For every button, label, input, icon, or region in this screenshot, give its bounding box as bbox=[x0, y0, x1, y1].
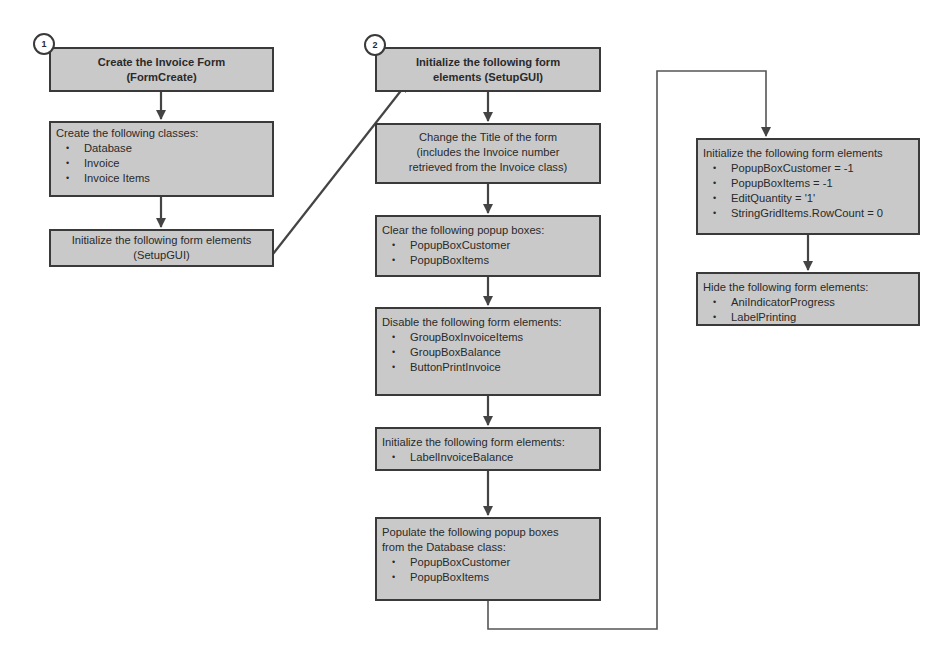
popup-list: PopupBoxCustomer PopupBoxItems bbox=[382, 555, 594, 585]
list-item: Database bbox=[56, 141, 267, 156]
box-line: Change the Title of the form bbox=[382, 130, 594, 145]
element-list: AniIndicatorProgress LabelPrinting bbox=[703, 295, 913, 325]
list-item: Invoice bbox=[56, 156, 267, 171]
box-subtitle: elements (SetupGUI) bbox=[382, 70, 594, 85]
box-subtitle: (SetupGUI) bbox=[56, 248, 267, 263]
box-change-title: Change the Title of the form (includes t… bbox=[375, 123, 601, 184]
box-disable-form-elements: Disable the following form elements: Gro… bbox=[375, 307, 601, 396]
box-initialize-setupgui: Initialize the following form elements (… bbox=[49, 229, 274, 267]
list-item: PopupBoxItems bbox=[382, 570, 594, 585]
element-list: PopupBoxCustomer = -1 PopupBoxItems = -1… bbox=[703, 161, 913, 221]
list-item: AniIndicatorProgress bbox=[703, 295, 913, 310]
box-create-classes: Create the following classes: Database I… bbox=[49, 121, 274, 197]
list-item: PopupBoxCustomer bbox=[382, 238, 594, 253]
box-heading: Disable the following form elements: bbox=[382, 315, 594, 330]
class-list: Database Invoice Invoice Items bbox=[56, 141, 267, 186]
box-clear-popup-boxes: Clear the following popup boxes: PopupBo… bbox=[375, 215, 601, 277]
box-heading: Create the following classes: bbox=[56, 126, 267, 141]
box-line: retrieved from the Invoice class) bbox=[382, 160, 594, 175]
list-item: StringGridItems.RowCount = 0 bbox=[703, 206, 913, 221]
step-number-badge: 2 bbox=[364, 34, 386, 56]
element-list: GroupBoxInvoiceItems GroupBoxBalance But… bbox=[382, 330, 594, 375]
box-hide-form-elements: Hide the following form elements: AniInd… bbox=[696, 272, 920, 326]
list-item: LabelInvoiceBalance bbox=[382, 450, 594, 465]
box-title: Initialize the following form bbox=[382, 55, 594, 70]
box-create-invoice-form: Create the Invoice Form (FormCreate) bbox=[49, 47, 274, 92]
list-item: EditQuantity = '1' bbox=[703, 191, 913, 206]
box-heading: Populate the following popup boxes bbox=[382, 525, 594, 540]
list-item: PopupBoxCustomer bbox=[382, 555, 594, 570]
list-item: ButtonPrintInvoice bbox=[382, 360, 594, 375]
box-heading: Hide the following form elements: bbox=[703, 280, 913, 295]
box-initialize-form-values: Initialize the following form elements P… bbox=[696, 138, 920, 235]
box-initialize-form-elements-setupgui: Initialize the following form elements (… bbox=[375, 47, 601, 92]
box-heading: Initialize the following form elements bbox=[703, 146, 913, 161]
list-item: PopupBoxItems bbox=[382, 253, 594, 268]
box-heading: Initialize the following form elements: bbox=[382, 435, 594, 450]
box-title: Initialize the following form elements bbox=[56, 233, 267, 248]
box-line: (includes the Invoice number bbox=[382, 145, 594, 160]
box-subtitle: (FormCreate) bbox=[56, 70, 267, 85]
list-item: GroupBoxInvoiceItems bbox=[382, 330, 594, 345]
popup-list: PopupBoxCustomer PopupBoxItems bbox=[382, 238, 594, 268]
list-item: Invoice Items bbox=[56, 171, 267, 186]
box-populate-popup-boxes: Populate the following popup boxes from … bbox=[375, 517, 601, 601]
box-title: Create the Invoice Form bbox=[56, 55, 267, 70]
box-heading-2: from the Database class: bbox=[382, 540, 594, 555]
list-item: GroupBoxBalance bbox=[382, 345, 594, 360]
list-item: PopupBoxItems = -1 bbox=[703, 176, 913, 191]
list-item: PopupBoxCustomer = -1 bbox=[703, 161, 913, 176]
box-initialize-label-balance: Initialize the following form elements: … bbox=[375, 427, 601, 471]
element-list: LabelInvoiceBalance bbox=[382, 450, 594, 465]
list-item: LabelPrinting bbox=[703, 310, 913, 325]
step-number-badge: 1 bbox=[33, 33, 55, 55]
box-heading: Clear the following popup boxes: bbox=[382, 223, 594, 238]
